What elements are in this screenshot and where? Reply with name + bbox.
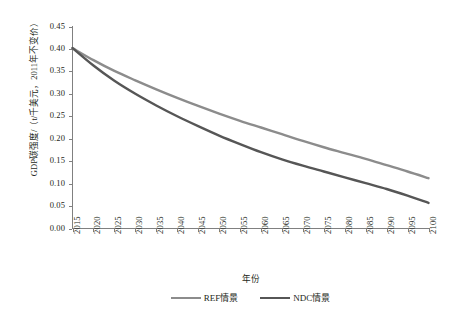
series-curves	[0, 0, 454, 310]
legend-label: NDC情景	[293, 293, 330, 304]
legend-swatch	[171, 297, 201, 300]
chart-legend: REF情景NDC情景	[73, 291, 428, 305]
legend-swatch	[260, 297, 290, 300]
y-axis-title: GDP碳强度/（t/千美元，2011年不变价）	[29, 0, 39, 197]
legend-item[interactable]: REF情景	[171, 293, 239, 304]
x-axis-title: 年份	[73, 272, 428, 284]
legend-label: REF情景	[204, 293, 239, 304]
legend-item[interactable]: NDC情景	[260, 293, 330, 304]
carbon-intensity-line-chart: 0.450.400.350.300.250.200.150.100.050.00…	[0, 0, 454, 310]
series-line	[73, 48, 429, 203]
series-line	[73, 48, 429, 178]
